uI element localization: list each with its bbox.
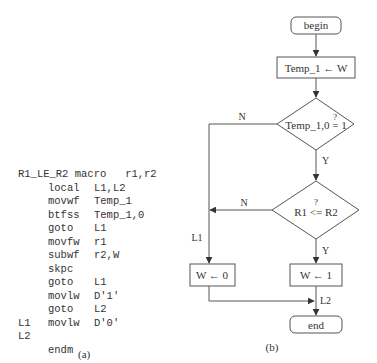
decision2-label: R1 <= R2 [294,206,338,218]
edge-label-l2: L2 [320,295,331,306]
end-label: end [308,319,324,331]
edge-label-d2-no: N [240,197,247,208]
caption-b: (b) [266,341,279,354]
w0-label: W ← 0 [196,269,229,281]
decision1-label: Temp_1,0 = 1 [285,119,346,131]
edge-label-d1-no: N [238,111,245,122]
flowchart: begin Temp_1 ← W ? Temp_1,0 = 1 ? R1 <= … [0,0,377,363]
edge-label-d1-yes: Y [322,155,329,166]
assign-temp-label: Temp_1 ← W [285,62,348,74]
edge-label-d2-yes: Y [322,245,329,256]
begin-label: begin [304,19,329,31]
w1-label: W ← 1 [300,269,332,281]
edge-label-l1: L1 [191,232,202,243]
